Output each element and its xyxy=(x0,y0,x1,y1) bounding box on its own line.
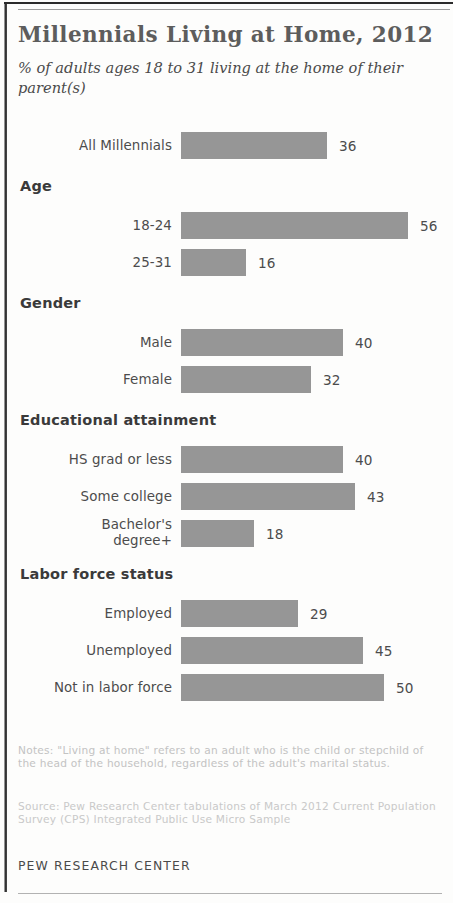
chart-bar-value: 43 xyxy=(367,489,384,505)
top-dark-rule xyxy=(4,2,453,4)
chart-bar-value: 36 xyxy=(339,138,356,154)
infographic-page: Millennials Living at Home, 2012 % of ad… xyxy=(0,0,453,903)
chart-row: 18-2456 xyxy=(0,212,453,239)
chart-bar xyxy=(181,366,311,393)
group-header: Gender xyxy=(20,295,81,311)
chart-row: Employed29 xyxy=(0,600,453,627)
chart-bar-value: 18 xyxy=(266,526,283,542)
chart-bar-value: 56 xyxy=(420,218,437,234)
chart-bar xyxy=(181,212,408,239)
chart-row: Male40 xyxy=(0,329,453,356)
chart-bar-value: 50 xyxy=(396,680,413,696)
page-subtitle: % of adults ages 18 to 31 living at the … xyxy=(18,58,430,98)
chart-bar-value: 16 xyxy=(258,255,275,271)
chart-row-label: Not in labor force xyxy=(0,680,172,695)
chart-bar xyxy=(181,483,355,510)
chart-row: Unemployed45 xyxy=(0,637,453,664)
chart-bar-value: 40 xyxy=(355,452,372,468)
chart-row: HS grad or less40 xyxy=(0,446,453,473)
chart-row: Some college43 xyxy=(0,483,453,510)
chart-row: All Millennials36 xyxy=(0,132,453,159)
group-header: Labor force status xyxy=(20,566,173,582)
chart-bar xyxy=(181,249,246,276)
chart-row-label: Unemployed xyxy=(0,643,172,658)
group-header: Age xyxy=(20,178,52,194)
page-title: Millennials Living at Home, 2012 xyxy=(18,22,438,47)
chart-row-label: Some college xyxy=(0,489,172,504)
chart-row-label: All Millennials xyxy=(0,138,172,153)
chart-row-label: 18-24 xyxy=(0,218,172,233)
chart-bar-value: 32 xyxy=(323,372,340,388)
chart-row: Not in labor force50 xyxy=(0,674,453,701)
chart-row: Female32 xyxy=(0,366,453,393)
chart-bar xyxy=(181,600,298,627)
chart-bar xyxy=(181,637,363,664)
chart-bar xyxy=(181,132,327,159)
chart-row-label: Bachelor'sdegree+ xyxy=(0,517,172,549)
chart-bar-value: 29 xyxy=(310,606,327,622)
chart-row-label: Male xyxy=(0,335,172,350)
bottom-rule xyxy=(18,893,442,894)
chart-row-label: Female xyxy=(0,372,172,387)
chart-bar xyxy=(181,674,384,701)
chart-bar xyxy=(181,446,343,473)
attribution-label: PEW RESEARCH CENTER xyxy=(18,858,191,873)
chart-row-label: 25-31 xyxy=(0,255,172,270)
chart-bar-value: 45 xyxy=(375,643,392,659)
chart-notes: Notes: "Living at home" refers to an adu… xyxy=(18,744,436,769)
chart-row-label: HS grad or less xyxy=(0,452,172,467)
chart-row: 25-3116 xyxy=(0,249,453,276)
chart-source: Source: Pew Research Center tabulations … xyxy=(18,800,438,825)
group-header: Educational attainment xyxy=(20,412,216,428)
top-gray-rule xyxy=(18,9,450,10)
chart-row-label: Employed xyxy=(0,606,172,621)
chart-bar xyxy=(181,329,343,356)
chart-row: Bachelor'sdegree+18 xyxy=(0,520,453,547)
chart-bar-value: 40 xyxy=(355,335,372,351)
chart-bar xyxy=(181,520,254,547)
